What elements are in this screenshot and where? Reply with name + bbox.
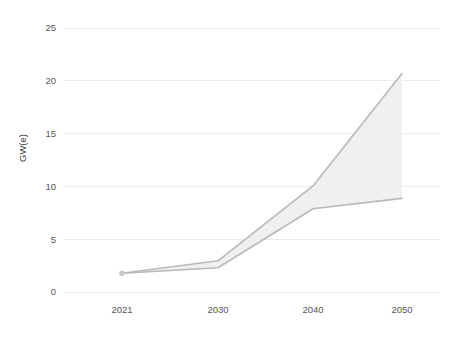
y-tick-label-15: 15 bbox=[45, 128, 56, 139]
x-tick-label-2040: 2040 bbox=[302, 304, 323, 315]
y-axis-title: GW(e) bbox=[17, 134, 28, 162]
start-point-marker bbox=[119, 271, 125, 277]
y-tick-label-0: 0 bbox=[51, 286, 56, 297]
x-tick-label-2050: 2050 bbox=[391, 304, 412, 315]
chart-container: 0 5 10 15 20 25 GW(e) 2021 2030 2040 205… bbox=[0, 0, 469, 338]
x-tick-label-2021: 2021 bbox=[111, 304, 132, 315]
y-tick-label-10: 10 bbox=[45, 181, 56, 192]
projection-range-chart: 0 5 10 15 20 25 GW(e) 2021 2030 2040 205… bbox=[0, 0, 469, 338]
x-tick-label-2030: 2030 bbox=[207, 304, 228, 315]
y-tick-label-25: 25 bbox=[45, 22, 56, 33]
y-tick-label-5: 5 bbox=[51, 234, 56, 245]
y-tick-label-20: 20 bbox=[45, 75, 56, 86]
y-axis-title-group: GW(e) bbox=[17, 134, 28, 162]
